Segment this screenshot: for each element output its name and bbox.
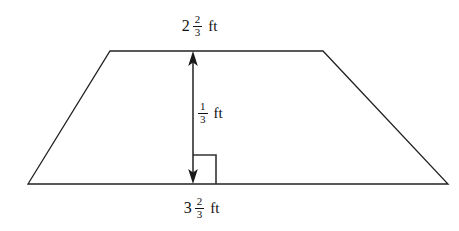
- height-fraction: 1 3: [198, 101, 208, 125]
- bottom-base-value: 3 2 3 ft: [184, 196, 220, 220]
- right-angle-marker-icon: [193, 155, 216, 184]
- top-base-denominator: 3: [193, 27, 203, 39]
- top-base-numerator: 2: [193, 14, 203, 26]
- top-base-whole: 2: [182, 18, 190, 34]
- trapezoid-outline: [28, 51, 448, 184]
- top-base-unit: ft: [208, 19, 217, 34]
- bottom-base-numerator: 2: [195, 196, 205, 208]
- top-base-fraction: 2 3: [193, 14, 203, 38]
- top-base-value: 2 2 3 ft: [182, 14, 218, 38]
- bottom-base-fraction: 2 3: [195, 196, 205, 220]
- top-base-label: 2 2 3 ft: [0, 14, 429, 38]
- bottom-base-denominator: 3: [195, 209, 205, 221]
- height-value: 1 3 ft: [197, 101, 223, 125]
- height-label: 1 3 ft: [197, 101, 223, 125]
- trapezoid-figure: 2 2 3 ft 1 3 ft 3 2 3: [0, 0, 459, 231]
- bottom-base-unit: ft: [210, 201, 219, 216]
- bottom-base-label: 3 2 3 ft: [0, 196, 431, 220]
- height-numerator: 1: [198, 101, 208, 113]
- height-unit: ft: [214, 106, 223, 121]
- height-denominator: 3: [198, 114, 208, 126]
- bottom-base-whole: 3: [184, 200, 192, 216]
